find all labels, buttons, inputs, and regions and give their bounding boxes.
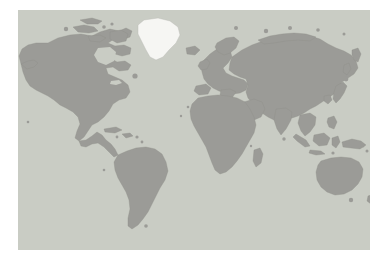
islet-arctic-b xyxy=(102,25,106,29)
page-root xyxy=(0,0,387,265)
islet-hokkaido xyxy=(344,77,349,82)
islet-arctic-c xyxy=(110,22,113,25)
islet-timor xyxy=(331,151,334,154)
islet-jamaica xyxy=(116,136,119,139)
world-map-panel[interactable] xyxy=(18,10,370,250)
islet-galapagos xyxy=(103,169,106,172)
islet-svalbard xyxy=(234,26,238,30)
islet-tasmania xyxy=(349,198,353,202)
islet-arctic-a xyxy=(64,27,68,31)
islet-puerto-rico xyxy=(135,135,138,138)
islet-canary xyxy=(187,106,190,109)
islet-falklands xyxy=(144,224,148,228)
islet-newfoundland xyxy=(132,73,137,78)
islet-severnaya-zemlya xyxy=(288,26,292,30)
world-map-svg[interactable] xyxy=(18,10,370,250)
islet-wrangel xyxy=(343,33,346,36)
islet-novaya-zemlya xyxy=(264,29,268,33)
islet-comoros xyxy=(250,145,252,147)
islet-sri-lanka xyxy=(282,137,285,140)
islet-hawaii xyxy=(27,121,30,124)
islet-new-britain xyxy=(362,145,365,148)
islet-new-siberian xyxy=(316,28,320,32)
islet-lesser-antilles xyxy=(141,141,144,144)
islet-solomon xyxy=(366,150,369,153)
islet-cape-verde xyxy=(180,115,182,117)
